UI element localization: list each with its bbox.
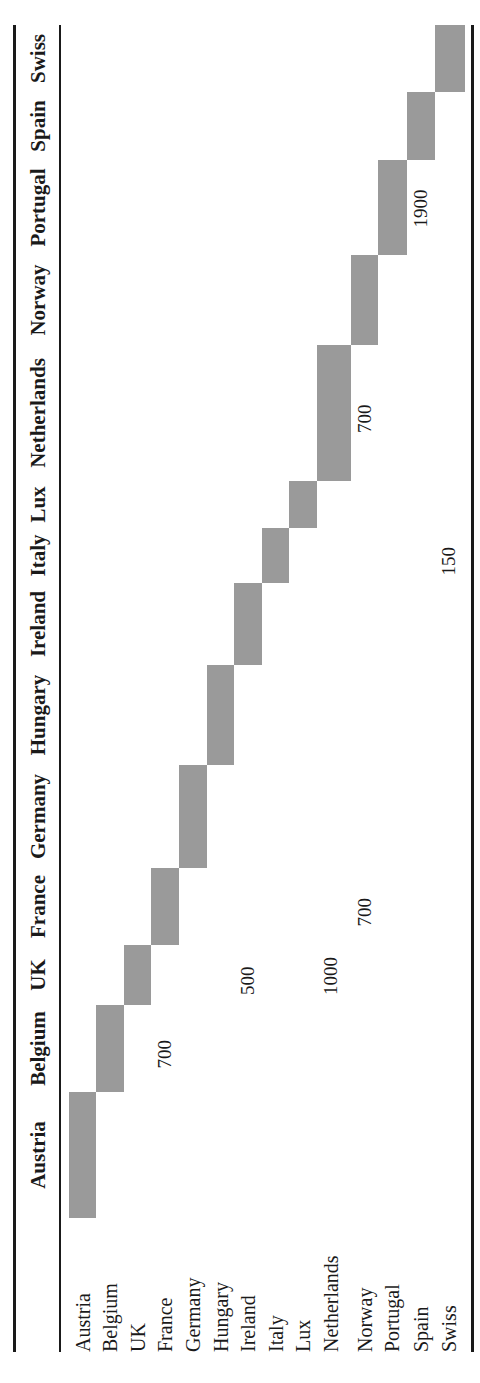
diagonal-cell	[262, 528, 289, 583]
column-header: France	[20, 868, 56, 945]
column-header: Italy	[20, 528, 56, 583]
row-label: Norway	[351, 1288, 379, 1352]
diagonal-cell	[317, 345, 351, 481]
row-label: Spain	[407, 1306, 435, 1352]
cell-value: 1000	[317, 957, 345, 995]
diagonal-cell	[407, 92, 435, 160]
cell-value: 700	[351, 898, 379, 927]
header-rule	[59, 25, 61, 1352]
row-label: Netherlands	[317, 1255, 345, 1352]
cell-value: 700	[151, 1040, 179, 1069]
cell-value: 500	[234, 967, 262, 996]
bottom-rule	[471, 25, 474, 1352]
row-label: Portugal	[378, 1284, 406, 1352]
column-header: Swiss	[20, 25, 56, 92]
top-rule	[13, 25, 16, 1352]
row-label: Lux	[289, 1320, 317, 1352]
column-header: Spain	[20, 92, 56, 160]
row-label: Belgium	[96, 1283, 124, 1352]
cell-value: 150	[435, 547, 463, 576]
diagonal-cell	[96, 1005, 124, 1092]
diagonal-cell	[351, 255, 378, 345]
column-header: Norway	[20, 255, 56, 345]
diagonal-cell	[69, 1092, 96, 1218]
row-label: France	[151, 1298, 179, 1352]
row-label: Italy	[262, 1315, 290, 1352]
rotated-table-page: AustriaBelgiumUKFranceGermanyHungaryIrel…	[0, 0, 480, 1383]
row-label: Swiss	[435, 1305, 463, 1352]
column-header: UK	[20, 945, 56, 1005]
column-header: Netherlands	[20, 345, 56, 481]
column-header: Belgium	[20, 1005, 56, 1092]
cell-value: 700	[351, 405, 379, 434]
column-header: Germany	[20, 765, 56, 868]
diagonal-cell	[435, 25, 465, 92]
diagonal-cell	[207, 665, 234, 765]
column-header: Lux	[20, 481, 56, 528]
diagonal-cell	[378, 160, 407, 255]
row-label: Hungary	[207, 1282, 235, 1352]
cell-value: 1900	[407, 190, 435, 228]
diagonal-cell	[124, 945, 151, 1005]
row-label: Ireland	[234, 1295, 262, 1352]
diagonal-cell	[234, 583, 262, 665]
row-label: UK	[124, 1323, 152, 1352]
row-label: Germany	[179, 1278, 207, 1352]
diagonal-cell	[151, 868, 179, 945]
diagonal-cell	[179, 765, 207, 868]
column-header: Ireland	[20, 583, 56, 665]
row-label: Austria	[69, 1293, 97, 1352]
column-header: Portugal	[20, 160, 56, 255]
diagonal-cell	[289, 481, 317, 528]
column-header: Hungary	[20, 665, 56, 765]
column-header: Austria	[20, 1092, 56, 1218]
